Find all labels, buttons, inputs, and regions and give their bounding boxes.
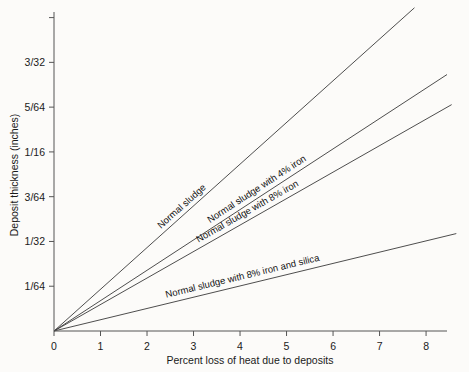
x-tick-label: 0 xyxy=(51,340,57,352)
y-tick-label: 3/32 xyxy=(25,56,46,68)
x-tick-label: 1 xyxy=(98,340,104,352)
x-tick-label: 5 xyxy=(284,340,290,352)
y-tick-label: 1/16 xyxy=(25,146,46,158)
x-tick-label: 6 xyxy=(330,340,336,352)
y-tick-label: 1/64 xyxy=(25,280,46,292)
chart-container: 1/641/323/641/165/643/32012345678 Normal… xyxy=(0,0,469,372)
y-tick-label: 5/64 xyxy=(25,101,46,113)
y-tick-label: 1/32 xyxy=(25,235,46,247)
x-tick-label: 7 xyxy=(377,340,383,352)
y-tick-label: 3/64 xyxy=(25,191,46,203)
deposit-thickness-chart: 1/641/323/641/165/643/32012345678 Normal… xyxy=(0,0,469,372)
x-axis-title: Percent loss of heat due to deposits xyxy=(167,354,334,366)
x-tick-label: 8 xyxy=(423,340,429,352)
y-axis-title: Deposit thickness (inches) xyxy=(8,114,20,237)
x-tick-label: 2 xyxy=(144,340,150,352)
x-tick-label: 4 xyxy=(237,340,243,352)
x-tick-label: 3 xyxy=(191,340,197,352)
